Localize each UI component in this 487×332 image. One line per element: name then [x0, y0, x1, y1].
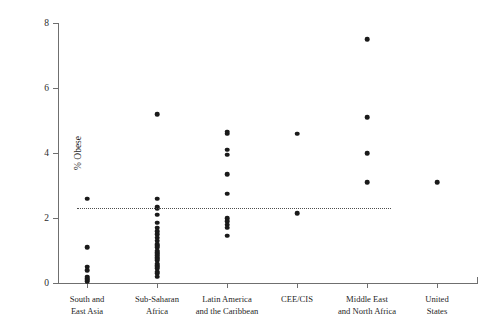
x-tick-1: [157, 283, 158, 288]
y-axis-title: % Obese: [73, 136, 83, 170]
y-tick-4: 4: [53, 153, 58, 154]
category-label-4: Middle Eastand North Africa: [338, 294, 396, 317]
data-point: [155, 212, 160, 217]
data-point: [225, 131, 230, 136]
x-axis-right-cap: [477, 277, 478, 284]
y-tick-8: 8: [53, 23, 58, 24]
data-point: [365, 37, 370, 42]
y-tick-label-0: 0: [44, 278, 49, 288]
y-tick-label-2: 2: [44, 213, 49, 223]
x-tick-2: [227, 283, 228, 288]
data-point: [225, 152, 230, 157]
y-tick-6: 6: [53, 88, 58, 89]
x-tick-4: [367, 283, 368, 288]
category-label-line2: States: [425, 306, 448, 318]
data-point: [225, 225, 230, 230]
data-point: [435, 180, 440, 185]
data-point: [225, 234, 230, 239]
category-label-5: UnitedStates: [425, 294, 448, 317]
category-label-1: Sub-SaharanAfrica: [135, 294, 179, 317]
data-point: [85, 279, 90, 284]
category-label-line1: Sub-Saharan: [135, 294, 179, 306]
data-point: [295, 211, 300, 216]
y-tick-0: 0: [53, 283, 58, 284]
category-label-2: Latin Americaand the Caribbean: [196, 294, 259, 317]
category-label-3: CEE/CIS: [281, 294, 313, 306]
data-point: [155, 112, 160, 117]
category-label-line2: East Asia: [70, 306, 105, 318]
category-label-line1: Middle East: [338, 294, 396, 306]
y-tick-2: 2: [53, 218, 58, 219]
y-axis-title-wrap: % Obese: [74, 23, 75, 283]
x-axis-line: [58, 283, 478, 284]
data-point: [155, 196, 160, 201]
data-point: [155, 274, 160, 279]
y-axis-line: [58, 23, 59, 283]
category-label-line2: Africa: [135, 306, 179, 318]
x-axis-left-cap: [58, 277, 59, 284]
obesity-scatter-chart: 02468 South andEast AsiaSub-SaharanAfric…: [0, 0, 487, 332]
category-label-line1: CEE/CIS: [281, 294, 313, 306]
category-label-line2: and the Caribbean: [196, 306, 259, 318]
data-point: [85, 245, 90, 250]
data-point: [85, 196, 90, 201]
category-label-0: South andEast Asia: [70, 294, 105, 317]
category-label-line1: South and: [70, 294, 105, 306]
x-tick-3: [297, 283, 298, 288]
data-point: [365, 180, 370, 185]
data-point: [85, 268, 90, 273]
category-label-line2: and North Africa: [338, 306, 396, 318]
data-point: [365, 151, 370, 156]
data-point: [365, 115, 370, 120]
y-tick-label-6: 6: [44, 83, 49, 93]
reference-line: [77, 208, 391, 209]
data-point: [225, 191, 230, 196]
x-tick-0: [87, 283, 88, 288]
data-point: [295, 131, 300, 136]
y-tick-label-8: 8: [44, 18, 49, 28]
x-tick-5: [437, 283, 438, 288]
y-tick-label-4: 4: [44, 148, 49, 158]
data-point: [225, 172, 230, 177]
plot-area: 02468 South andEast AsiaSub-SaharanAfric…: [58, 23, 478, 283]
category-label-line1: Latin America: [196, 294, 259, 306]
category-label-line1: United: [425, 294, 448, 306]
